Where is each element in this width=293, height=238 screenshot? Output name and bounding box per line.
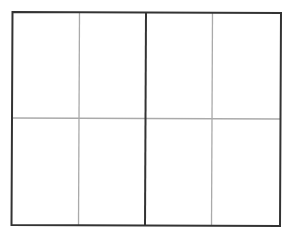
center-divider (145, 13, 146, 226)
grid-diagram (0, 0, 293, 238)
